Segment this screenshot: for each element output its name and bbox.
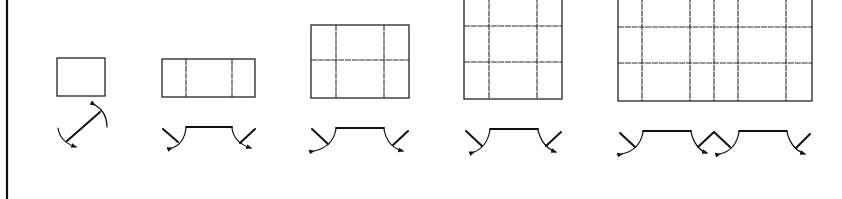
window-frame [162,59,255,97]
window-frame [311,25,409,98]
casement-swing-symbol-3 [312,128,408,151]
window-types-diagram [0,0,842,199]
window-frame [618,0,812,101]
pivot-swing-symbol-1 [58,105,107,147]
window-frame [57,58,105,96]
window-elevations [57,0,812,101]
window-elevation-1 [57,58,105,96]
casement-swing-symbol-2 [163,127,255,148]
window-elevation-5 [618,0,812,101]
casement-swing-symbol-4 [466,129,561,152]
window-elevation-3 [311,25,409,98]
window-elevation-2 [162,59,255,97]
diagram-svg [0,0,842,199]
window-frame [464,0,562,99]
window-elevation-4 [464,0,562,99]
quad-swing-symbol-5 [620,131,810,154]
